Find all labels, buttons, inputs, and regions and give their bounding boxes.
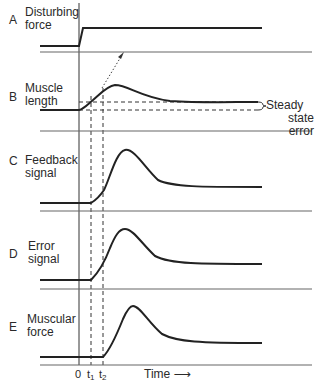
panel-d-label: Error signal	[28, 240, 59, 266]
tick-t2: t2	[99, 368, 107, 382]
panel-e-plot	[40, 306, 312, 365]
time-axis-label: Time ⟶	[144, 367, 191, 381]
panel-a-letter: A	[9, 13, 17, 27]
panel-e-letter: E	[9, 320, 17, 334]
panel-c-letter: C	[9, 154, 18, 168]
panel-e-label: Muscular force	[27, 313, 76, 339]
panel-a-plot	[40, 28, 312, 52]
tick-zero: 0	[75, 368, 81, 380]
panel-c-plot	[40, 150, 312, 211]
panel-a-label: Disturbing force	[25, 6, 79, 32]
panel-b-label: Muscle length	[25, 82, 63, 108]
panel-b-letter: B	[9, 90, 17, 104]
panel-d-curve	[40, 229, 262, 280]
tick-t1: t1	[87, 368, 95, 382]
tick-t1-sub: 1	[90, 373, 94, 382]
panel-c-label: Feedback signal	[25, 154, 78, 180]
panel-b-dotted-extrapolation	[102, 55, 122, 88]
panel-d-label-line2: signal	[28, 253, 59, 266]
panel-b-arrowhead	[118, 52, 124, 59]
steady-state-error-line3: error	[268, 125, 314, 138]
steady-state-brace	[258, 102, 266, 110]
panel-c-label-line2: signal	[25, 167, 78, 180]
panel-d-plot	[40, 229, 312, 289]
panel-a-label-line2: force	[25, 19, 79, 32]
panel-d-letter: D	[9, 247, 18, 261]
time-arrow-icon: ⟶	[174, 367, 191, 381]
panel-b-curve	[40, 85, 258, 110]
tick-t2-sub: 2	[102, 373, 106, 382]
panel-e-label-line2: force	[27, 326, 76, 339]
steady-state-error-label: Steady state error	[268, 99, 314, 138]
time-axis-text: Time	[144, 367, 170, 381]
panel-b-label-line2: length	[25, 95, 63, 108]
